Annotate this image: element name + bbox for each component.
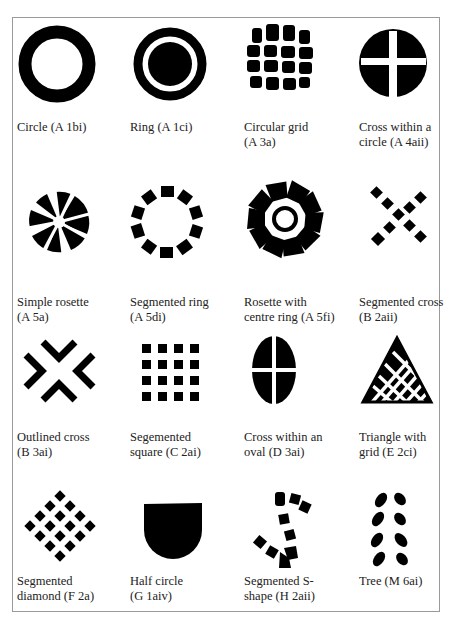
motif-segmented-square: Segemented square (C 2ai) xyxy=(130,330,237,470)
motif-label: Segemented square (C 2ai) xyxy=(130,430,201,460)
motif-label: Half circle (G 1aiv) xyxy=(130,574,183,604)
motif-label: Cross within a circle (A 4aii) xyxy=(359,120,431,150)
motif-label: Outlined cross (B 3ai) xyxy=(17,430,90,460)
motif-segmented-cross: Segmented cross (B 2aii) xyxy=(359,180,454,320)
motif-rosette-centre-ring: Rosette with centre ring (A 5fi) xyxy=(244,180,351,320)
motif-triangle-grid: Triangle with grid (E 2ci) xyxy=(359,330,454,470)
ring-icon xyxy=(130,20,237,110)
cross-in-circle-icon xyxy=(359,20,454,110)
segmented-diamond-icon xyxy=(17,488,124,578)
outlined-cross-icon xyxy=(17,330,124,420)
rosette-centre-ring-icon xyxy=(244,180,351,270)
motif-label: Cross within an oval (D 3ai) xyxy=(244,430,322,460)
circle-icon xyxy=(17,20,124,110)
tree-icon xyxy=(359,488,454,578)
motif-label: Segmented ring (A 5di) xyxy=(130,295,209,325)
motif-cross-in-circle: Cross within a circle (A 4aii) xyxy=(359,20,454,160)
motif-cross-in-oval: Cross within an oval (D 3ai) xyxy=(244,330,351,470)
segmented-cross-icon xyxy=(359,180,454,270)
motif-label: Ring (A 1ci) xyxy=(130,120,193,135)
segmented-square-icon xyxy=(130,330,237,420)
half-circle-icon xyxy=(130,488,237,578)
motif-ring: Ring (A 1ci) xyxy=(130,20,237,160)
segmented-s-shape-icon xyxy=(244,488,351,578)
motif-label: Circular grid (A 3a) xyxy=(244,120,308,150)
segmented-ring-icon xyxy=(130,180,237,270)
motif-circle: Circle (A 1bi) xyxy=(17,20,124,160)
motif-label: Rosette with centre ring (A 5fi) xyxy=(244,295,335,325)
motif-label: Segmented cross (B 2aii) xyxy=(359,295,443,325)
motif-label: Triangle with grid (E 2ci) xyxy=(359,430,426,460)
motif-label: Simple rosette (A 5a) xyxy=(17,295,89,325)
simple-rosette-icon xyxy=(17,180,124,270)
motif-segmented-s-shape: Segmented S- shape (H 2aii) xyxy=(244,488,351,618)
motif-half-circle: Half circle (G 1aiv) xyxy=(130,488,237,618)
motif-label: Segmented diamond (F 2a) xyxy=(17,574,94,604)
motif-segmented-ring: Segmented ring (A 5di) xyxy=(130,180,237,320)
motif-tree: Tree (M 6ai) xyxy=(359,488,454,618)
motif-label: Circle (A 1bi) xyxy=(17,120,86,135)
triangle-grid-icon xyxy=(359,330,454,420)
motif-circular-grid: Circular grid (A 3a) xyxy=(244,20,351,160)
motif-outlined-cross: Outlined cross (B 3ai) xyxy=(17,330,124,470)
motif-label: Segmented S- shape (H 2aii) xyxy=(244,574,315,604)
circular-grid-icon xyxy=(244,20,351,110)
motif-segmented-diamond: Segmented diamond (F 2a) xyxy=(17,488,124,618)
motif-label: Tree (M 6ai) xyxy=(359,574,422,589)
motif-simple-rosette: Simple rosette (A 5a) xyxy=(17,180,124,320)
cross-in-oval-icon xyxy=(244,330,351,420)
